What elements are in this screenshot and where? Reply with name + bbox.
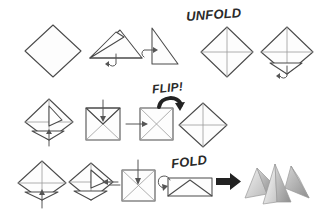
step-diamond-creases-flipped [176,100,230,150]
step-1-svg [22,22,84,80]
step-2-svg [88,26,144,74]
step-13-svg [158,168,218,210]
step-diamond-bottom-flap [258,24,316,80]
result-svg [243,158,313,210]
step-right-triangle-fold [138,24,190,74]
step-4-svg [198,24,256,80]
label-unfold: UNFOLD [186,6,242,23]
step-3-svg [138,24,190,74]
step-12-svg [110,158,164,210]
step-square-crossed-top-arrow [76,98,128,148]
bottom-flap [270,63,302,74]
right-arrow-icon [216,172,242,192]
step-triangle-fold [88,26,144,74]
step-7-svg [76,98,128,148]
right-arrow-glyph [216,173,241,190]
instruction-sheet: UNFOLD [0,0,322,215]
finished-origami-model [243,158,313,210]
lower-flap [74,191,107,200]
envelope-outline [168,178,212,196]
curl-arrow-head [162,184,168,191]
step-5-svg [258,24,316,80]
step-flat-envelope-fold [158,168,218,210]
step-diamond-two-flaps [22,96,78,148]
step-unfolded-diamond-creases [198,24,256,80]
step-square-crossed-push-down [110,158,164,210]
fold-arrow-head [105,61,109,67]
diamond-outline [25,25,81,77]
fold-arrow-head [276,73,280,79]
peak-right-a [285,166,309,198]
result-arrow [216,172,242,192]
step-square-diamond [22,22,84,80]
step-9-svg [176,100,230,150]
right-triangle-outline [152,28,178,64]
step-6-svg [22,96,78,148]
